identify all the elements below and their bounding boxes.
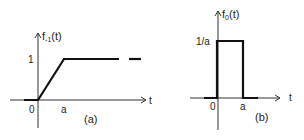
diagram: f-1(t) 1 0 a (a) t f0(t) 1/a 0 a (b) t: [0, 0, 304, 140]
tick-y-label: 1: [28, 54, 34, 65]
caption: (b): [255, 111, 268, 123]
x-axis-label: t: [289, 92, 292, 103]
caption: (a): [84, 113, 97, 125]
y-axis-label: f0(t): [222, 8, 239, 21]
graph-b: f0(t) 1/a 0 a (b) t: [190, 8, 292, 130]
origin-label: 0: [29, 104, 35, 115]
x-axis-label: t: [149, 95, 152, 106]
tick-x-label: a: [61, 104, 67, 115]
y-axis-label: f-1(t): [42, 30, 62, 43]
graph-a: f-1(t) 1 0 a (a) t: [10, 30, 152, 128]
origin-label: 0: [210, 101, 216, 112]
tick-y-label: 1/a: [196, 36, 210, 47]
tick-x-label: a: [240, 101, 246, 112]
pulse-curve: [204, 41, 258, 98]
